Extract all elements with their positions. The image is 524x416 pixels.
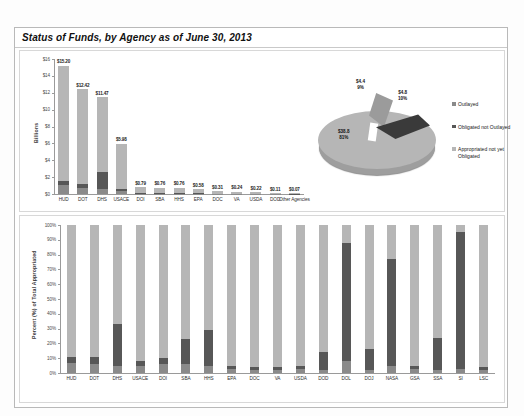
y-axis-label-percent: Percent (%) of Total Appropriated <box>31 250 37 339</box>
y-tick-pct-4: 40% <box>38 311 56 316</box>
pct-segment-appropriated-not-yet-obligated <box>387 225 396 259</box>
bar-value-hud: $15.20 <box>48 59 80 64</box>
pct-segment-obligated-not-outlayed <box>113 324 122 365</box>
y-tick-pct-2: 20% <box>38 341 56 346</box>
pct-segment-obligated-not-outlayed <box>342 243 351 361</box>
pct-segment-outlayed <box>365 370 374 373</box>
pct-segment-obligated-not-outlayed <box>181 339 190 364</box>
y-axis-line-pct <box>60 225 61 373</box>
pct-bar-epa <box>227 225 236 373</box>
y-tick-1: $2 <box>34 175 50 180</box>
pct-segment-outlayed <box>204 366 213 373</box>
pct-segment-outlayed <box>250 370 259 373</box>
pct-bar-doc <box>250 225 259 373</box>
bar-doi <box>135 187 146 194</box>
y-tick-3: $6 <box>34 141 50 146</box>
pct-segment-appropriated-not-yet-obligated <box>456 225 465 232</box>
x-axis-line-pct <box>60 373 495 374</box>
pct-bar-doj <box>365 225 374 373</box>
pct-segment-appropriated-not-yet-obligated <box>433 225 442 337</box>
legend-swatch-2 <box>452 147 456 151</box>
legend-label-2: Appropriated not yet Obligated <box>458 146 518 159</box>
pct-segment-appropriated-not-yet-obligated <box>479 225 488 367</box>
pie-label-1: $4.810% <box>398 90 407 102</box>
y-tick-2: $4 <box>34 158 50 163</box>
pie-label-percent-1: 10% <box>398 96 407 102</box>
bar-usda <box>250 192 261 194</box>
pct-segment-appropriated-not-yet-obligated <box>159 225 168 358</box>
bar-segment-appropriated-not-yet-obligated <box>97 97 108 171</box>
y-tick-pct-0: 0% <box>38 371 56 376</box>
legend-swatch-1 <box>452 125 456 129</box>
pct-segment-appropriated-not-yet-obligated <box>319 225 328 352</box>
pct-segment-appropriated-not-yet-obligated <box>90 225 99 357</box>
bar-segment-obligated-not-outlayed <box>97 172 108 190</box>
pct-bar-usace <box>136 225 145 373</box>
report-title-bar: Status of Funds, by Agency as of June 30… <box>15 28 507 48</box>
pct-segment-outlayed <box>433 370 442 373</box>
bar-segment-outlayed <box>77 188 88 194</box>
pct-segment-outlayed <box>113 366 122 373</box>
pct-segment-outlayed <box>410 369 419 373</box>
pie-label-2: $38.881% <box>338 129 350 141</box>
bar-value-other-agencies: $0.07 <box>278 187 310 192</box>
x-axis-line <box>54 194 304 195</box>
pct-segment-appropriated-not-yet-obligated <box>296 225 305 366</box>
pct-bar-hhs <box>204 225 213 373</box>
page-title: Status of Funds, by Agency as of June 30… <box>22 32 252 43</box>
bar-sba <box>154 188 165 194</box>
pct-segment-obligated-not-outlayed <box>319 352 328 370</box>
bar-segment-outlayed <box>58 185 69 194</box>
legend-label-0: Outlayed <box>458 101 478 108</box>
pct-segment-outlayed <box>227 369 236 373</box>
bar-other-agencies <box>289 193 300 194</box>
pct-segment-appropriated-not-yet-obligated <box>113 225 122 324</box>
pct-segment-appropriated-not-yet-obligated <box>365 225 374 349</box>
pct-segment-obligated-not-outlayed <box>456 232 465 368</box>
bar-segment-appropriated-not-yet-obligated <box>77 89 88 184</box>
pct-segment-appropriated-not-yet-obligated <box>204 225 213 330</box>
y-tick-4: $8 <box>34 124 50 129</box>
bar-dod <box>270 193 281 194</box>
pct-bar-gsa <box>410 225 419 373</box>
pct-bar-dhs <box>113 225 122 373</box>
pct-x-tick-lsc: LSC <box>470 376 498 381</box>
pct-segment-appropriated-not-yet-obligated <box>410 225 419 366</box>
pct-segment-appropriated-not-yet-obligated <box>181 225 190 339</box>
pct-segment-appropriated-not-yet-obligated <box>227 225 236 366</box>
x-tick-other-agencies: Other Agencies <box>277 197 311 202</box>
y-tick-pct-5: 50% <box>38 297 56 302</box>
pct-bar-dot <box>90 225 99 373</box>
pct-bar-si <box>456 225 465 373</box>
pct-segment-appropriated-not-yet-obligated <box>342 225 351 243</box>
report-frame: Status of Funds, by Agency as of June 30… <box>14 27 508 408</box>
y-tick-pct-7: 70% <box>38 267 56 272</box>
pct-segment-outlayed <box>159 364 168 373</box>
pct-segment-obligated-not-outlayed <box>387 259 396 366</box>
pct-bar-dod <box>319 225 328 373</box>
legend-item-0: Outlayed <box>452 101 518 108</box>
y-tick-pct-10: 100% <box>38 223 56 228</box>
pct-segment-appropriated-not-yet-obligated <box>273 225 282 367</box>
bar-dot <box>77 89 88 194</box>
screenshot-root: Status of Funds, by Agency as of June 30… <box>0 0 524 416</box>
bar-value-usace: $5.98 <box>105 137 137 142</box>
pct-segment-outlayed <box>136 366 145 373</box>
y-tick-0: $0 <box>34 192 50 197</box>
bar-va <box>231 192 242 194</box>
chart-percent-of-total-appropriated: Percent (%) of Total Appropriated0%10%20… <box>19 215 505 403</box>
bar-dhs <box>97 97 108 194</box>
y-tick-pct-1: 10% <box>38 356 56 361</box>
pct-bar-lsc <box>479 225 488 373</box>
bar-doc <box>212 191 223 194</box>
pct-bar-va <box>273 225 282 373</box>
pct-segment-obligated-not-outlayed <box>365 349 374 370</box>
y-tick-6: $12 <box>34 90 50 95</box>
pct-segment-outlayed <box>296 369 305 373</box>
legend-item-1: Obligated not Outlayed <box>452 124 518 131</box>
pct-bar-hud <box>67 225 76 373</box>
legend-label-1: Obligated not Outlayed <box>458 124 510 131</box>
y-tick-pct-6: 60% <box>38 282 56 287</box>
pct-segment-appropriated-not-yet-obligated <box>136 225 145 361</box>
pct-segment-outlayed <box>342 361 351 373</box>
